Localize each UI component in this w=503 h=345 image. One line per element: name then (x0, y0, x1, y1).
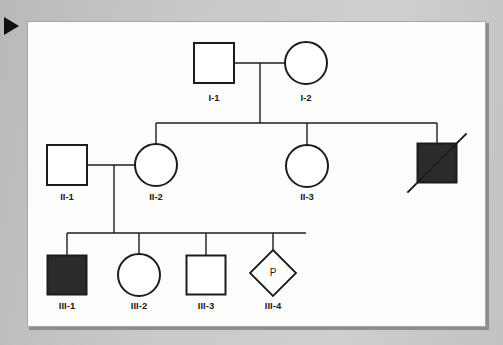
individual-ii-2-label: II-2 (149, 191, 163, 202)
individual-ii-1-square[interactable] (47, 145, 87, 185)
individual-ii-1[interactable] (47, 145, 87, 185)
connector-lines (67, 63, 437, 256)
individual-ii-3-label: II-3 (300, 191, 314, 202)
individual-ii-2-circle[interactable] (135, 144, 177, 186)
individual-iii-4-label: III-4 (265, 300, 282, 311)
individual-iii-2-circle[interactable] (118, 254, 160, 296)
pedigree-chart: PI-1I-2II-1II-2II-3III-1III-2III-3III-4 (28, 22, 485, 326)
individual-ii-3[interactable] (286, 145, 328, 187)
pedigree-panel: PI-1I-2II-1II-2II-3III-1III-2III-3III-4 (27, 21, 486, 327)
individual-iii-4[interactable]: P (250, 250, 296, 296)
pedigree-figure-root: PI-1I-2II-1II-2II-3III-1III-2III-3III-4 (0, 0, 503, 345)
individual-ii-3-circle[interactable] (286, 145, 328, 187)
individual-i-2-circle[interactable] (285, 42, 327, 84)
individual-iii-2-label: III-2 (131, 300, 147, 311)
individual-iii-4-proband-marker: P (270, 267, 277, 278)
individual-i-1[interactable] (194, 43, 234, 83)
individual-iii-2[interactable] (118, 254, 160, 296)
individual-i-1-square[interactable] (194, 43, 234, 83)
individual-i-2-label: I-2 (300, 92, 311, 103)
individual-nodes: P (47, 42, 467, 296)
individual-iii-1[interactable] (48, 256, 87, 295)
individual-iii-1-label: III-1 (59, 300, 76, 311)
individual-iii-1-square[interactable] (48, 256, 87, 295)
individual-iii-3-label: III-3 (198, 300, 214, 311)
individual-ii-1-label: II-1 (60, 191, 74, 202)
individual-iii-3[interactable] (187, 256, 226, 295)
individual-ii-2[interactable] (135, 144, 177, 186)
individual-i-2[interactable] (285, 42, 327, 84)
individual-i-1-label: I-1 (208, 92, 220, 103)
play-triangle-icon (4, 17, 19, 35)
individual-iii-3-square[interactable] (187, 256, 226, 295)
